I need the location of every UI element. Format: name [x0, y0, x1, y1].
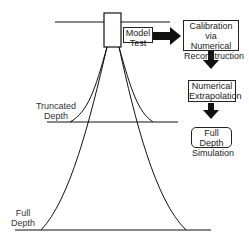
calibration-box: Calibration via Numerical Reconstruction	[183, 20, 239, 51]
box-text: Calibration via	[184, 21, 238, 41]
label-text: Full	[8, 208, 38, 218]
label-text: Depth	[34, 111, 78, 121]
box-text: Reconstruction	[184, 51, 238, 61]
model-test-box: Model Test	[123, 27, 153, 43]
full-mooring-left	[41, 47, 107, 230]
box-text: Simulation	[192, 148, 231, 158]
label-text: Truncated	[34, 101, 78, 111]
truncated-depth-label: Truncated Depth	[34, 101, 78, 121]
full-mooring-right	[119, 47, 186, 230]
box-text: Full Depth	[192, 128, 231, 148]
arrow-down-icon	[203, 103, 219, 119]
box-text: Numerical	[189, 81, 235, 91]
box-text: Model	[124, 28, 152, 38]
full-depth-label: Full Depth	[8, 208, 38, 228]
box-text: Numerical	[184, 41, 238, 51]
extrapolation-box: Numerical Extrapolation	[188, 80, 236, 102]
arrow-right-icon	[153, 27, 181, 45]
truncated-mooring-right	[119, 47, 153, 122]
label-text: Depth	[8, 218, 38, 228]
box-text: Test	[124, 38, 152, 48]
box-text: Extrapolation	[189, 91, 235, 101]
platform-tower	[104, 13, 121, 47]
full-depth-simulation-box: Full Depth Simulation	[191, 127, 232, 148]
